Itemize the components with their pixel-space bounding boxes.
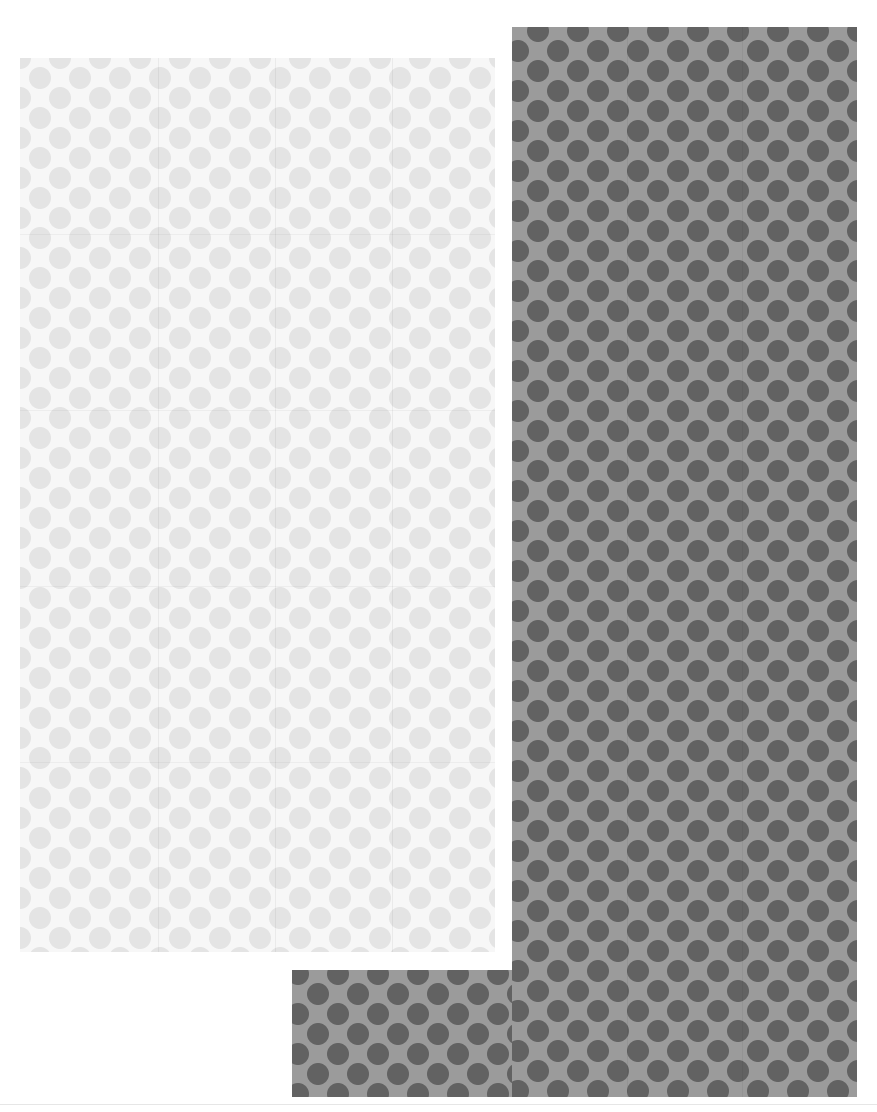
light-swatch	[20, 58, 495, 952]
floor-line	[0, 1104, 877, 1105]
fold-seam	[20, 762, 495, 763]
fold-seam	[20, 234, 495, 235]
fold-seam	[392, 58, 393, 952]
white-margin	[292, 952, 512, 970]
white-margin	[495, 40, 512, 970]
fold-seam	[20, 586, 495, 587]
fold-seam	[275, 58, 276, 952]
fold-seam	[158, 58, 159, 952]
dark-swatch-vertical	[512, 27, 857, 1097]
fold-seam	[627, 27, 628, 1097]
fold-seam	[20, 410, 495, 411]
fold-seam	[742, 27, 743, 1097]
